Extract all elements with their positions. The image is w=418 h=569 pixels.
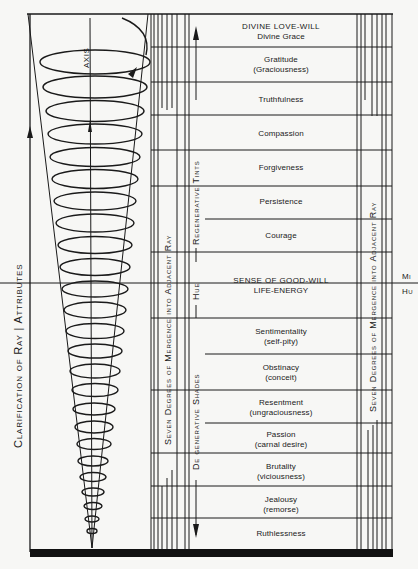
right-mergence-label: Seven Degrees of Mergence into Adjacent … xyxy=(368,202,378,412)
row-persistence: Persistence xyxy=(205,197,357,207)
ray-attributes-diagram: Clarification of Ray | Attributes AXIS S… xyxy=(0,0,418,569)
row-sentimentality: Sentimentality(self-pity) xyxy=(205,327,357,347)
title-vertical: Clarification of Ray | Attributes xyxy=(12,264,24,448)
regenerative-tints-label: Regenerative Tints xyxy=(191,160,201,245)
row-obstinacy: Obstinacy(conceit) xyxy=(205,363,357,383)
axis-label: AXIS xyxy=(82,48,91,68)
spiral-ellipses xyxy=(40,18,150,534)
row-truthfulness: Truthfulness xyxy=(205,95,357,105)
row-courage: Courage xyxy=(205,231,357,241)
row-divine-love-will: DIVINE LOVE-WILLDivine Grace xyxy=(205,22,357,42)
degenerative-shades-label: De generative Shades xyxy=(191,374,201,470)
edge-fragment-2: Hu xyxy=(402,287,413,296)
row-sense-of-good-will: SENSE OF GOOD-WILLLIFE-ENERGY xyxy=(205,276,357,296)
row-passion: Passion(carnal desire) xyxy=(205,430,357,450)
row-brutality: Brutality(viciousness) xyxy=(205,462,357,482)
row-forgiveness: Forgiveness xyxy=(205,163,357,173)
row-jealousy: Jealousy(remorse) xyxy=(205,495,357,515)
row-resentment: Resentment(ungraciousness) xyxy=(205,398,357,418)
edge-fragment-1: Mi xyxy=(402,272,411,281)
hue-label: Hue xyxy=(191,283,201,300)
row-ruthlessness: Ruthlessness xyxy=(205,529,357,539)
row-compassion: Compassion xyxy=(205,129,357,139)
left-mergence-label: Seven Degrees of Mergence into Adjacent … xyxy=(163,235,173,445)
row-gratitude: Gratitude(Graciousness) xyxy=(205,55,357,75)
